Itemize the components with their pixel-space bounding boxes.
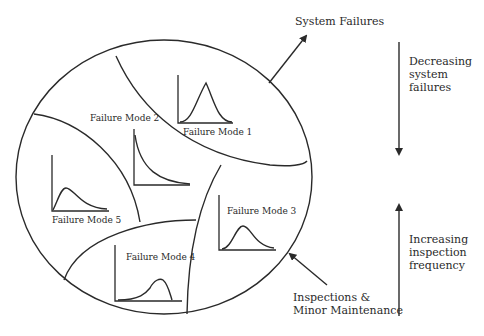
decreasing-line3: failures	[409, 81, 472, 94]
label-inspections-line2: Minor Maintenance	[293, 304, 403, 317]
plot-mode3	[219, 195, 276, 250]
label-failure-mode-4: Failure Mode 4	[126, 252, 195, 262]
label-system-failures: System Failures	[295, 15, 384, 28]
increasing-line3: frequency	[409, 259, 468, 272]
system-boundary-circle	[16, 40, 312, 314]
failure-mode-diagram: Failure Mode 1 Failure Mode 2 Failure Mo…	[0, 0, 484, 336]
label-inspections-line1: Inspections &	[293, 291, 403, 304]
label-failure-mode-5: Failure Mode 5	[52, 215, 121, 225]
plot-mode2	[134, 129, 190, 185]
label-increasing-inspection-frequency: Increasing inspection frequency	[409, 233, 468, 272]
boundary-mode3	[187, 165, 221, 314]
decreasing-line1: Decreasing	[409, 55, 472, 68]
diagram-graphics	[0, 0, 484, 336]
boundary-mode5-top	[34, 114, 140, 222]
plot-mode1	[178, 75, 233, 123]
system-failures-arrow	[269, 36, 306, 83]
label-decreasing-system-failures: Decreasing system failures	[409, 55, 472, 94]
label-failure-mode-3: Failure Mode 3	[227, 206, 296, 216]
label-failure-mode-2: Failure Mode 2	[90, 113, 159, 123]
inspections-arrow	[290, 254, 327, 285]
boundary-mode4	[64, 220, 196, 280]
increasing-line1: Increasing	[409, 233, 468, 246]
boundary-mode1	[116, 56, 307, 166]
plot-mode5	[52, 155, 109, 211]
label-failure-mode-1: Failure Mode 1	[183, 127, 252, 137]
label-inspections: Inspections & Minor Maintenance	[293, 291, 403, 317]
increasing-line2: inspection	[409, 246, 468, 259]
decreasing-line2: system	[409, 68, 472, 81]
